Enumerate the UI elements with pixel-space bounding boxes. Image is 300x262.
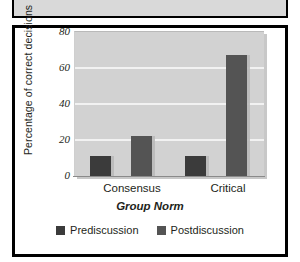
bar-chart: Percentage of correct decisions 80 60 40… — [0, 0, 300, 262]
legend-label: Postdiscussion — [171, 224, 244, 236]
y-axis-ticks: 80 60 40 20 0 — [44, 0, 70, 262]
x-axis-line — [73, 176, 265, 177]
bar-group-container — [75, 32, 264, 176]
x-tick-consensus: Consensus — [82, 182, 182, 194]
x-tick-critical: Critical — [178, 182, 278, 194]
figure-root: Percentage of correct decisions 80 60 40… — [0, 0, 300, 262]
bar-consensus-prediscussion — [90, 156, 111, 176]
plot-area — [74, 31, 264, 176]
bar-critical-prediscussion — [185, 156, 206, 176]
y-tick-label: 0 — [44, 169, 70, 181]
legend-label: Prediscussion — [70, 224, 138, 236]
legend-item-postdiscussion: Postdiscussion — [157, 224, 244, 236]
y-tick-label: 40 — [44, 97, 70, 109]
legend-item-prediscussion: Prediscussion — [56, 224, 138, 236]
bar-critical-postdiscussion — [226, 55, 247, 176]
y-axis-label: Percentage of correct decisions — [22, 5, 34, 155]
chart-legend: Prediscussion Postdiscussion — [0, 224, 300, 236]
legend-swatch-icon — [56, 226, 65, 235]
x-axis-label: Group Norm — [0, 200, 300, 212]
y-tick-label: 60 — [44, 61, 70, 73]
y-tick-label: 80 — [44, 25, 70, 37]
y-tick-label: 20 — [44, 133, 70, 145]
bar-consensus-postdiscussion — [131, 136, 152, 176]
legend-swatch-icon — [157, 226, 166, 235]
